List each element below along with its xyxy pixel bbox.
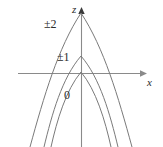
curve-label-zero: 0 (64, 89, 70, 101)
z-axis-label: z (72, 4, 76, 15)
curve-label-pm2: ±2 (44, 18, 57, 30)
figure-canvas (0, 0, 163, 147)
curve-label-pm1: ±1 (57, 51, 70, 63)
x-axis-arrowhead-icon (140, 70, 147, 76)
x-axis-label: x (147, 77, 152, 88)
parabola-family-figure: z x ±2 ±1 0 (0, 0, 163, 147)
z-axis (78, 7, 84, 147)
